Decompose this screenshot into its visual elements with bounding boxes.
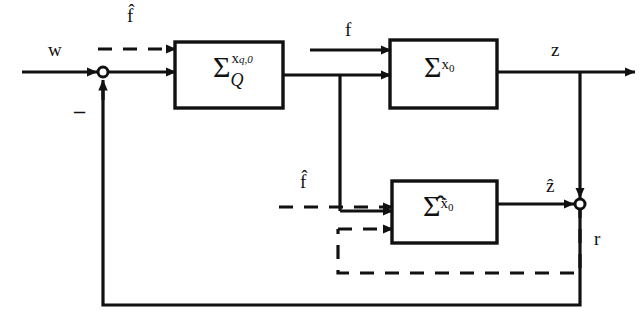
signal-label-z-hat: ẑ — [546, 176, 554, 195]
signal-label-f: f — [345, 20, 351, 39]
sigma-x0-superscript: x0 — [441, 56, 454, 72]
sigma-q-superscript: xq,0 — [231, 51, 252, 66]
input-summing-junction-circle — [98, 67, 108, 77]
sigma-q-subscript: Q — [230, 71, 243, 89]
diagram-canvas — [0, 0, 643, 319]
sigma-q-block-label: Σxq,0Q — [213, 52, 230, 82]
block-diagram: Σxq,0Q Σx0 Σ̂x̂0 w – f̂ f z f̂ ẑ r — [0, 0, 643, 319]
signal-label-f-hat-bottom: f̂ — [300, 172, 306, 191]
signal-label-f-hat-top: f̂ — [127, 6, 133, 25]
sigma-q-symbol: Σ — [213, 50, 230, 83]
signal-label-r: r — [594, 229, 600, 248]
sigma-x0-symbol: Σ — [424, 50, 441, 83]
sigma-hat-superscript: x̂0 — [440, 195, 453, 211]
signal-label-w: w — [48, 40, 62, 59]
sigma-x0-block-label: Σx0 — [424, 52, 454, 82]
sign-label-minus: – — [74, 100, 85, 122]
signal-label-z: z — [551, 40, 559, 59]
error-summing-junction-circle — [575, 199, 585, 209]
sigma-hat-symbol: Σ̂ — [423, 189, 440, 222]
sigma-hat-block-label: Σ̂x̂0 — [423, 191, 453, 221]
